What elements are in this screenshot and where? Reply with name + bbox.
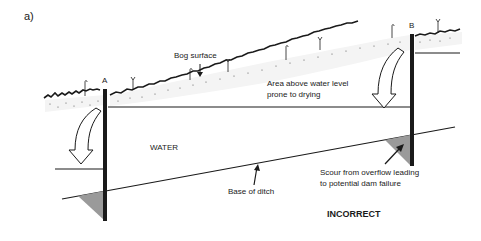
dam-b xyxy=(410,34,414,166)
area-label-line2: prone to drying xyxy=(267,90,320,100)
dam-a xyxy=(103,89,107,221)
ditch-dam-diagram xyxy=(0,0,481,241)
overflow-arrow-a xyxy=(69,108,101,164)
dam-b-label: B xyxy=(409,21,414,31)
scour-area-a xyxy=(78,191,104,220)
base-of-ditch-pointer xyxy=(254,164,260,185)
bog-surface-label: Bog surface xyxy=(174,51,217,61)
panel-label: a) xyxy=(24,11,34,21)
dam-a-label: A xyxy=(102,76,107,86)
area-label-line1: Area above water level xyxy=(267,79,348,89)
scour-label-line1: Scour from overflow leading xyxy=(320,168,419,178)
base-of-ditch-label: Base of ditch xyxy=(228,187,274,197)
scour-label-line2: to potential dam failure xyxy=(320,179,401,189)
bog-soil-band xyxy=(45,32,462,112)
verdict-label: INCORRECT xyxy=(327,209,381,219)
water-label: WATER xyxy=(150,143,178,153)
